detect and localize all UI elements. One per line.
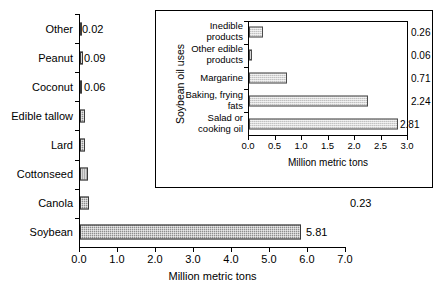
inset-chart-row-other-edible-products: Other edibleproducts 0.06: [248, 44, 407, 67]
main-chart-x-tick-label: 3.0: [185, 253, 200, 265]
main-chart-bar: [80, 197, 89, 210]
inset-chart-category-label: Baking, fryingfats: [185, 90, 243, 112]
inset-category-line-1: Inedible: [210, 20, 243, 31]
inset-chart-value-label: 0.71: [411, 72, 430, 83]
main-chart-x-tick-label: 7.0: [337, 253, 352, 265]
inset-category-line-1: Baking, frying: [185, 89, 243, 100]
inset-chart-category-label: Salad orcooking oil: [198, 113, 243, 135]
inset-chart-plot-area: Inedibleproducts 0.26 Other edibleproduc…: [248, 21, 407, 135]
main-chart-bar: [80, 80, 82, 93]
inset-chart-y-axis-title: Soybean oil uses: [174, 24, 186, 144]
inset-chart-y-tick: [244, 112, 248, 113]
inset-chart-x-tick-label: 1.0: [294, 140, 307, 151]
inset-chart-x-tick-label: 0.5: [268, 140, 281, 151]
main-chart-category-label: Edible tallow: [11, 110, 73, 122]
main-chart-y-tick: [75, 72, 79, 73]
main-chart-bar: [80, 138, 85, 151]
tick-mark: [269, 248, 270, 252]
inset-chart-x-ticks: 0.0 0.5 1.0 1.5 2.0 2.5 3.0: [248, 136, 408, 156]
main-chart-x-tick-label: 1.0: [109, 253, 124, 265]
main-chart-row-soybean: Soybean 5.81: [79, 218, 345, 247]
inset-chart-x-tick-label: 2.5: [374, 140, 387, 151]
inset-chart-bar: [249, 27, 263, 38]
main-chart-category-label: Peanut: [38, 52, 73, 64]
main-chart-x-tick-label: 0.0: [71, 253, 86, 265]
inset-chart-y-tick: [244, 67, 248, 68]
main-chart-y-tick: [75, 160, 79, 161]
main-chart-category-label: Canola: [38, 197, 73, 209]
main-chart-y-tick: [75, 218, 79, 219]
main-chart-x-tick-label: 2.0: [147, 253, 162, 265]
inset-category-line-1: Salad or: [208, 112, 243, 123]
main-chart-x-tick-label: 4.0: [223, 253, 238, 265]
main-chart-y-tick: [75, 189, 79, 190]
inset-bar-chart: Soybean oil uses Inedibleproducts 0.26 O…: [155, 10, 433, 188]
inset-category-line-1: Other edible: [191, 43, 243, 54]
main-chart-x-axis-title: Million metric tons: [79, 270, 346, 282]
main-chart-value-label: 0.02: [82, 23, 103, 35]
main-chart-category-label: Lard: [51, 139, 73, 151]
main-chart-bar: [80, 168, 88, 181]
inset-chart-row-baking-frying-fats: Baking, fryingfats 2.24: [248, 89, 407, 112]
inset-chart-category-label: Margarine: [200, 73, 243, 84]
inset-chart-bar: [249, 72, 287, 83]
inset-chart-bar: [249, 50, 252, 61]
main-chart-value-label: 5.81: [306, 226, 327, 238]
main-chart-y-tick: [75, 130, 79, 131]
main-chart-bar: [80, 51, 83, 64]
inset-chart-row-salad-or-cooking-oil: Salad orcooking oil 2.81: [248, 112, 407, 135]
tick-mark: [193, 248, 194, 252]
main-chart-category-label: Soybean: [30, 226, 73, 238]
inset-category-line-2: products: [207, 54, 243, 65]
inset-chart-value-label: 0.26: [411, 27, 430, 38]
main-chart-y-tick: [75, 14, 79, 15]
inset-chart-x-axis-title: Million metric tons: [248, 157, 408, 168]
tick-mark: [231, 248, 232, 252]
main-chart-category-label: Other: [45, 23, 73, 35]
tick-mark: [117, 248, 118, 252]
main-chart-value-label: 0.09: [84, 52, 105, 64]
inset-chart-category-label: Inedibleproducts: [207, 21, 243, 43]
inset-chart-value-label: 2.24: [411, 95, 430, 106]
tick-mark: [345, 248, 346, 252]
inset-chart-row-inedible-products: Inedibleproducts 0.26: [248, 21, 407, 44]
inset-chart-bar: [249, 118, 398, 129]
main-chart-category-label: Coconut: [32, 81, 73, 93]
main-chart-y-tick: [75, 43, 79, 44]
inset-chart-x-tick-label: 1.5: [321, 140, 334, 151]
inset-chart-value-label: 0.06: [411, 50, 430, 61]
main-chart-category-label: Cottonseed: [17, 168, 73, 180]
main-chart-bar: [80, 225, 301, 240]
inset-chart-row-margarine: Margarine 0.71: [248, 67, 407, 90]
inset-chart-value-label: 2.81: [400, 118, 419, 129]
inset-category-line-2: cooking oil: [198, 123, 243, 134]
inset-chart-x-tick-label: 0.0: [241, 140, 254, 151]
tick-mark: [79, 248, 80, 252]
inset-chart-y-tick: [244, 44, 248, 45]
main-chart-value-label: 0.23: [350, 197, 371, 209]
inset-category-line-2: products: [207, 31, 243, 42]
main-chart-x-tick-label: 5.0: [261, 253, 276, 265]
inset-chart-y-tick: [244, 89, 248, 90]
main-chart-row-canola: Canola 0.23: [79, 189, 345, 218]
main-chart-x-tick-label: 6.0: [299, 253, 314, 265]
main-chart-y-tick: [75, 101, 79, 102]
main-chart-bar: [80, 109, 85, 122]
inset-category-line-2: fats: [228, 100, 243, 111]
tick-mark: [307, 248, 308, 252]
inset-chart-y-tick: [244, 21, 248, 22]
inset-chart-category-label: Other edibleproducts: [191, 44, 243, 66]
main-chart-value-label: 0.06: [84, 81, 105, 93]
main-chart-x-ticks: 0.0 1.0 2.0 3.0 4.0 5.0 6.0 7.0: [79, 248, 346, 270]
inset-chart-bar: [249, 95, 368, 106]
tick-mark: [155, 248, 156, 252]
inset-chart-x-tick-label: 3.0: [400, 140, 413, 151]
inset-chart-x-tick-label: 2.0: [347, 140, 360, 151]
